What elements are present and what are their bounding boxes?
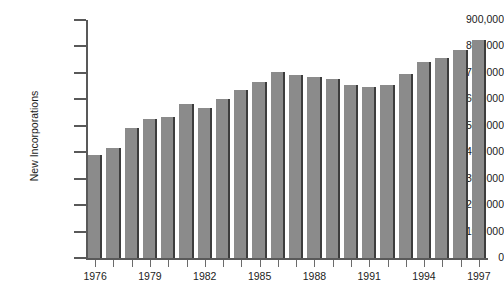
x-tick-1995	[442, 260, 443, 267]
bar-1992	[380, 85, 394, 258]
y-tick-600000	[74, 98, 86, 100]
x-tick-1994	[424, 260, 425, 267]
x-tick-1992	[388, 260, 389, 267]
x-tick-1996	[461, 260, 462, 267]
x-tick-1990	[351, 260, 352, 267]
x-tick-label-1982: 1982	[185, 270, 225, 282]
x-tick-1989	[333, 260, 334, 267]
y-tick-400000	[74, 151, 86, 153]
x-tick-1986	[278, 260, 279, 267]
bar-1994	[417, 62, 431, 258]
bar-1987	[289, 75, 303, 258]
x-tick-1980	[168, 260, 169, 267]
y-tick-500000	[74, 125, 86, 127]
bar-1982	[198, 108, 212, 258]
x-tick-label-1979: 1979	[130, 270, 170, 282]
bar-1978	[125, 128, 139, 258]
bar-1981	[179, 104, 193, 258]
bar-1988	[307, 77, 321, 258]
x-tick-label-1994: 1994	[404, 270, 444, 282]
bar-chart: New Incorporations 900,000800,000700,000…	[0, 0, 504, 296]
bar-1977	[106, 148, 120, 258]
x-tick-label-1985: 1985	[240, 270, 280, 282]
x-tick-label-1991: 1991	[349, 270, 389, 282]
x-tick-1977	[113, 260, 114, 267]
bar-1980	[161, 117, 175, 258]
x-tick-1981	[187, 260, 188, 267]
bar-1983	[216, 99, 230, 258]
x-tick-1997	[479, 260, 480, 267]
bar-1989	[326, 79, 340, 258]
y-tick-200000	[74, 204, 86, 206]
x-tick-1985	[260, 260, 261, 267]
bar-1990	[344, 85, 358, 258]
x-tick-1978	[132, 260, 133, 267]
bar-1993	[399, 74, 413, 258]
y-tick-300000	[74, 178, 86, 180]
x-tick-1983	[223, 260, 224, 267]
bar-1997	[472, 40, 486, 258]
x-tick-1991	[369, 260, 370, 267]
y-tick-900000	[74, 19, 86, 21]
bar-1976	[88, 155, 102, 258]
x-tick-1987	[296, 260, 297, 267]
plot-area	[86, 20, 488, 258]
y-tick-100000	[74, 231, 86, 233]
x-tick-1984	[241, 260, 242, 267]
x-tick-1979	[150, 260, 151, 267]
y-tick-700000	[74, 72, 86, 74]
bar-1995	[435, 58, 449, 258]
x-tick-label-1988: 1988	[294, 270, 334, 282]
bar-1979	[143, 119, 157, 258]
x-tick-1988	[314, 260, 315, 267]
bar-1984	[234, 90, 248, 258]
bar-1996	[453, 50, 467, 258]
x-tick-label-1997: 1997	[459, 270, 499, 282]
x-tick-1976	[95, 260, 96, 267]
x-tick-label-1976: 1976	[75, 270, 115, 282]
y-tick-800000	[74, 45, 86, 47]
bar-1985	[252, 82, 266, 258]
bar-1986	[271, 72, 285, 258]
y-tick-0	[74, 257, 86, 259]
bar-1991	[362, 87, 376, 258]
x-tick-1982	[205, 260, 206, 267]
x-tick-1993	[406, 260, 407, 267]
